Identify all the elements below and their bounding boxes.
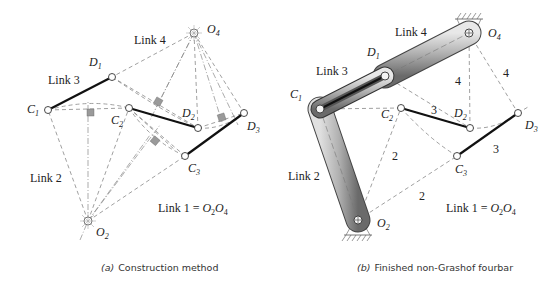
perpendicular-marker: [217, 113, 226, 122]
label-link-4: Link 4: [134, 33, 166, 47]
pin-c2: [126, 105, 133, 112]
label-d3: D3: [524, 118, 538, 134]
label-link-3: Link 3: [48, 73, 80, 87]
pin-c1: [45, 107, 52, 114]
label-link-2: Link 2: [30, 171, 62, 185]
label-c2: C2: [111, 113, 123, 129]
perpendicular-marker: [87, 109, 94, 116]
pin-c3: [182, 153, 189, 160]
label-d2: D2: [453, 106, 467, 122]
fixed-pivot-o2: [80, 213, 96, 229]
segment-label-3a: 3: [431, 103, 437, 117]
label-d1: D1: [366, 45, 380, 61]
label-link-2: Link 2: [288, 169, 320, 183]
label-c1: C1: [290, 87, 302, 103]
label-d3: D3: [246, 119, 260, 135]
label-c3: C3: [188, 161, 200, 177]
label-link-1: Link 1 = O2O4: [446, 201, 516, 217]
pin-d3: [241, 110, 248, 117]
label-link-4: Link 4: [395, 25, 427, 39]
label-link-3: Link 3: [316, 64, 348, 78]
panel-finished-fourbar: Link 4 Link 3 Link 2 Link 1 = O2O4 4 4 3…: [288, 13, 538, 273]
pin-d2: [467, 125, 474, 132]
pin-d2: [195, 125, 202, 132]
segment-label-4a: 4: [455, 74, 461, 88]
pin-c2: [398, 105, 405, 112]
link-2-bar: [320, 109, 358, 220]
link-3-bar: [320, 76, 385, 109]
fixed-pivot-o2: [354, 216, 362, 224]
pin-d1: [109, 74, 116, 81]
label-c1: C1: [27, 102, 39, 118]
pin-c1: [316, 105, 324, 113]
fixed-pivot-o4: [465, 29, 473, 37]
label-o2: O2: [96, 225, 109, 241]
segment-label-4b: 4: [503, 66, 509, 80]
fixed-pivot-o4: [186, 25, 202, 41]
perpendicular-marker: [150, 136, 160, 146]
segment-label-2a: 2: [392, 149, 398, 163]
segment-label-3b: 3: [493, 142, 499, 156]
label-link-1: Link 1 = O2O4: [158, 201, 228, 217]
label-c2: C2: [381, 107, 393, 123]
caption-b: (b)Finished non-Grashof fourbar: [357, 262, 513, 273]
panel-construction-method: Link 4 Link 3 Link 2 Link 1 = O2O4 O4 D1…: [27, 22, 260, 273]
label-o4: O4: [488, 26, 501, 42]
pin-c3: [454, 153, 461, 160]
label-d1: D1: [88, 55, 102, 71]
label-d2: D2: [181, 106, 195, 122]
label-o4: O4: [207, 22, 220, 38]
label-c3: C3: [455, 162, 467, 178]
fourbar-diagram: Link 4 Link 3 Link 2 Link 1 = O2O4 O4 D1…: [0, 0, 559, 288]
pin-d1: [381, 72, 389, 80]
label-o2: O2: [377, 216, 390, 232]
link-4-bar: [385, 33, 469, 76]
segment-label-2b: 2: [419, 189, 425, 203]
pin-d3: [515, 110, 522, 117]
caption-a: (a)Construction method: [101, 262, 218, 273]
